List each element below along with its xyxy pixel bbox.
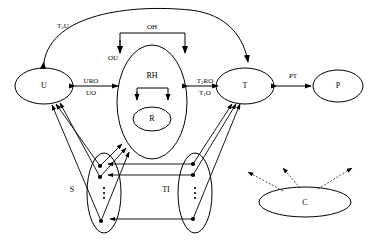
node-label-P: P <box>336 81 341 90</box>
instance-dot[interactable] <box>98 175 102 179</box>
edge-ti1-t <box>193 104 232 164</box>
edge-s1-rh <box>100 144 122 166</box>
edge-label-oh: OH <box>147 23 157 31</box>
diagram-canvas: U RH R T P S TI C T2U OH OU URO UO T2RO <box>0 0 382 241</box>
instance-dot[interactable] <box>98 164 102 168</box>
instance-dot[interactable] <box>191 217 195 221</box>
node-label-TI: TI <box>162 185 170 194</box>
s-vertical-ellipsis <box>103 187 105 199</box>
instance-dot[interactable] <box>191 173 195 177</box>
ti-vertical-ellipsis <box>194 187 196 199</box>
edge-label-t2ro: T2RO <box>197 77 214 86</box>
edge-s3-u <box>52 105 101 221</box>
instance-dot[interactable] <box>191 162 195 166</box>
edge-label-pt: PT <box>289 72 298 80</box>
instance-dot[interactable] <box>99 219 103 223</box>
edge-c-arrow-1 <box>248 172 283 191</box>
node-label-RH: RH <box>146 71 157 80</box>
node-label-R: R <box>149 114 155 123</box>
node-RH[interactable] <box>117 45 187 159</box>
node-label-S: S <box>70 185 74 194</box>
node-label-U: U <box>41 81 47 90</box>
edge-label-ou: OU <box>108 54 118 62</box>
edge-s1-u <box>56 104 100 166</box>
edge-c-arrow-2 <box>283 168 300 188</box>
node-label-C: C <box>302 198 307 207</box>
edge-ti3-t <box>193 104 240 219</box>
diagram-root: U RH R T P S TI C T2U OH OU URO UO T2RO <box>0 0 382 241</box>
edge-t2u <box>44 8 248 62</box>
edge-label-t2u: T2U <box>57 22 69 31</box>
edge-label-uo: UO <box>86 89 96 97</box>
edge-c-arrow-3 <box>318 168 352 189</box>
node-label-T: T <box>243 81 248 90</box>
edge-label-uro: URO <box>84 77 99 85</box>
edge-label-t1o: T1O <box>199 89 211 98</box>
edge-ti2-t <box>193 104 236 175</box>
edge-s2-u <box>60 103 100 177</box>
